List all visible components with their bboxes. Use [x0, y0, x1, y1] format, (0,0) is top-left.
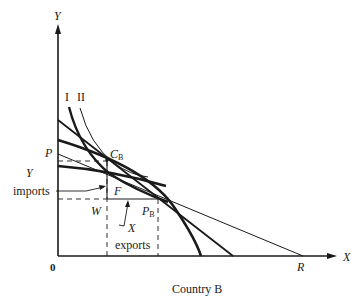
- imports-arrowhead-icon: [99, 185, 106, 190]
- diagram-caption: Country B: [172, 282, 222, 296]
- pre-trade-price-line: [58, 120, 233, 256]
- point-pb-label: PB: [141, 204, 155, 219]
- y-axis-label: Y: [54, 9, 62, 23]
- indifference-2-label: II: [77, 90, 85, 104]
- indifference-curve-2: [80, 108, 148, 177]
- trade-diagram: Y X 0 I II P R CB F W PB Y imports X exp…: [0, 0, 363, 306]
- axes: [55, 24, 337, 259]
- y-axis-arrow-icon: [55, 24, 61, 34]
- origin-label: 0: [50, 261, 56, 273]
- point-cb-label: CB: [110, 147, 123, 162]
- consumption-point-cb: [105, 158, 109, 162]
- x-axis-arrow-icon: [327, 253, 337, 259]
- x-axis-label: X: [342, 250, 351, 264]
- y-imports-label-y: Y: [26, 166, 34, 180]
- x-exports-label-x: X: [127, 221, 136, 235]
- y-imports-label-text: imports: [13, 184, 50, 198]
- point-r-label: R: [296, 260, 305, 274]
- indifference-1-label: I: [65, 90, 69, 104]
- exports-arrowhead-icon: [125, 200, 130, 207]
- point-f-label: F: [113, 184, 122, 198]
- point-w-label: W: [91, 204, 102, 218]
- imports-arrow: [56, 187, 104, 191]
- x-exports-label-text: exports: [115, 238, 151, 252]
- point-p-label: P: [44, 146, 53, 160]
